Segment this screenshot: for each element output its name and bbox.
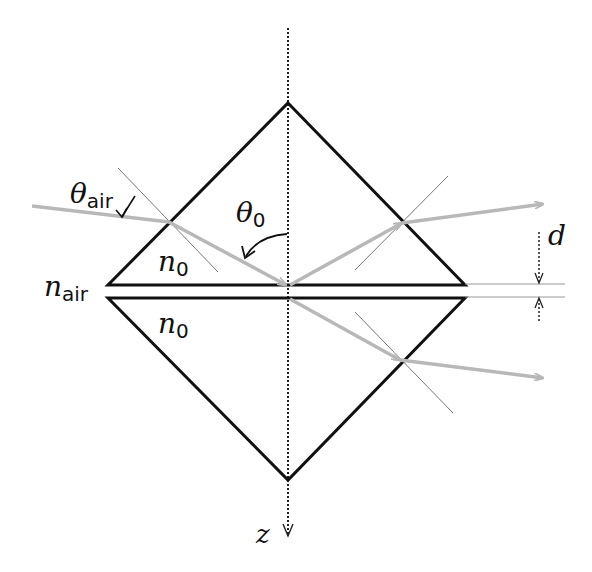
prism-diagram: θair θ0 n0 nair n0 d z (0, 0, 592, 572)
label-z: z (255, 519, 270, 549)
label-d: d (548, 219, 566, 252)
ray-transmitted-out (400, 360, 543, 378)
label-n-air: nair (44, 270, 89, 306)
ray-reflected-inside (290, 223, 402, 285)
label-theta-air: θair (70, 177, 114, 213)
label-theta-0: θ0 (236, 196, 266, 232)
ray-reflected-out (402, 204, 543, 223)
label-n0-lower: n0 (158, 307, 189, 343)
ray-transmitted-inside (290, 299, 400, 360)
label-n0-upper: n0 (158, 245, 189, 281)
